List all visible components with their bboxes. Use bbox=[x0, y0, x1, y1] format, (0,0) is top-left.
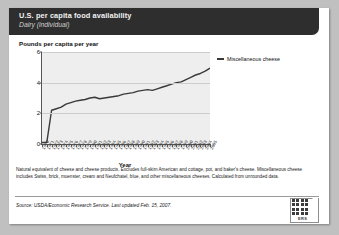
page-subtitle: Dairy (individual) bbox=[19, 21, 70, 28]
page-title: U.S. per capita food availability bbox=[19, 11, 132, 20]
chart-header-band: U.S. per capita food availability Dairy … bbox=[9, 8, 319, 35]
page-background: U.S. per capita food availability Dairy … bbox=[0, 0, 339, 235]
ers-logo: ERS bbox=[290, 198, 318, 222]
chart-footnote: Natural equivalent of cheese and cheese … bbox=[16, 166, 318, 180]
series-line bbox=[42, 68, 210, 142]
ers-logo-corner-icon bbox=[312, 198, 318, 204]
legend-label: Miscellaneous cheese bbox=[227, 56, 280, 62]
series-miscellaneous-cheese bbox=[42, 52, 210, 144]
source-text: Source: USDA/Economic Research Service. … bbox=[16, 203, 171, 208]
legend-swatch-icon bbox=[217, 58, 224, 60]
chart-plot-area: 0246197019711972197319741975197619771978… bbox=[19, 50, 315, 150]
footer-divider bbox=[15, 196, 319, 197]
ers-logo-dots-icon bbox=[292, 199, 308, 215]
y-axis-label: Pounds per capita per year bbox=[19, 40, 98, 47]
ers-logo-wordmark: ERS bbox=[298, 216, 307, 221]
plot-canvas: 0246197019711972197319741975197619771978… bbox=[41, 52, 210, 145]
gridline bbox=[42, 52, 210, 53]
chart-sheet: U.S. per capita food availability Dairy … bbox=[9, 8, 329, 224]
gridline bbox=[42, 83, 210, 84]
y-axis-tick-mark bbox=[40, 82, 42, 83]
y-axis-tick-mark bbox=[40, 52, 42, 53]
chart-legend: Miscellaneous cheese bbox=[217, 56, 280, 62]
gridline bbox=[42, 113, 210, 114]
y-axis-tick-mark bbox=[40, 113, 42, 114]
